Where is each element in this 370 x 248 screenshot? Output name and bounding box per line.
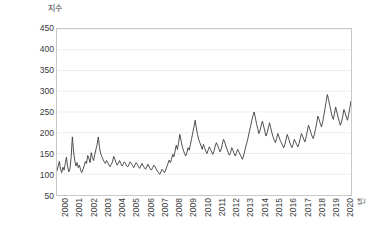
x-tick-label: 2008 [174, 198, 184, 217]
y-tick-label: 200 [24, 128, 54, 138]
x-tick-label: 2003 [103, 198, 113, 217]
x-tick-label: 2001 [74, 198, 84, 217]
x-tick-label: 2000 [60, 198, 70, 217]
x-tick-label: 2006 [146, 198, 156, 217]
x-tick-label: 2014 [260, 198, 270, 217]
y-tick-label-min: 50 [24, 191, 54, 201]
x-tick-label: 2009 [188, 198, 198, 217]
x-tick-label: 2016 [288, 198, 298, 217]
x-axis-title: 년 [355, 198, 366, 205]
y-tick-label: 350 [24, 65, 54, 75]
x-tick-label: 2011 [217, 198, 227, 216]
x-axis-tick-labels: 2000200120022003200420052006200720082009… [56, 198, 352, 244]
x-tick-label: 2013 [245, 198, 255, 217]
y-tick-label: 450 [24, 23, 54, 33]
y-tick-label: 250 [24, 107, 54, 117]
y-tick-label: 300 [24, 86, 54, 96]
x-tick-label: 2018 [317, 198, 327, 217]
x-tick-label: 2007 [160, 198, 170, 217]
x-tick-label: 2012 [231, 198, 241, 217]
x-tick-label: 2015 [274, 198, 284, 217]
x-tick-label: 2017 [303, 198, 313, 217]
data-series-line [57, 29, 351, 195]
x-tick-label: 2019 [331, 198, 341, 217]
x-tick-label: 2002 [89, 198, 99, 217]
y-tick-label: 150 [24, 149, 54, 159]
y-axis-title: 지수 [48, 2, 62, 13]
line-chart: 지수 45040035030025020015010050 2000200120… [0, 0, 370, 248]
x-tick-label: 2004 [117, 198, 127, 217]
y-axis-tick-labels: 45040035030025020015010050 [20, 28, 54, 196]
x-tick-label: 2010 [203, 198, 213, 217]
plot-area [56, 28, 352, 196]
y-tick-label: 100 [24, 170, 54, 180]
y-tick-label: 400 [24, 44, 54, 54]
x-tick-label: 2005 [131, 198, 141, 217]
x-tick-label: 2020 [345, 198, 355, 217]
